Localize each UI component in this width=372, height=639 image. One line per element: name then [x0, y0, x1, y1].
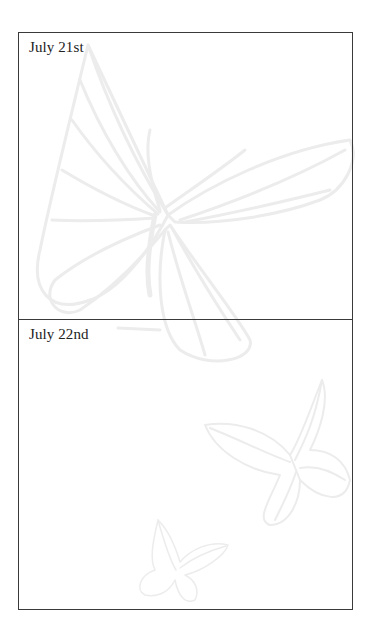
entry-date: July 21st: [29, 39, 84, 56]
entry-date: July 22nd: [29, 326, 89, 343]
journal-entry-july-22[interactable]: July 22nd: [19, 320, 352, 609]
journal-entry-july-21[interactable]: July 21st: [19, 33, 352, 320]
journal-page: July 21st July 22nd: [18, 32, 353, 610]
